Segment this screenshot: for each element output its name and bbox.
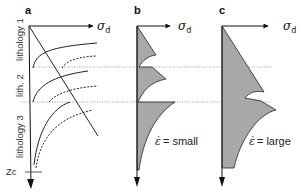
lithology-2-label: lith. 2 <box>14 74 25 97</box>
panel-c-letter: c <box>219 4 225 16</box>
lithology-1-label: lithology 1 <box>14 18 25 61</box>
depth-arrow-icon <box>27 179 34 189</box>
strength-profile-figure: a σd Zc lithology 1 lith. 2 lithology 3 … <box>0 0 305 193</box>
panel-b-letter: b <box>134 4 141 16</box>
ductile-curve-dotted-lith1 <box>62 56 96 68</box>
strain-rate-large-label: ε̇= large <box>249 135 291 148</box>
ductile-curve-dotted-lith2 <box>49 86 98 102</box>
panel-c: c σd ε̇= large <box>219 4 296 187</box>
strain-rate-small-label: ε̇= small <box>155 135 198 148</box>
panel-b-axis-label: σd <box>178 19 191 35</box>
depth-arrow-icon <box>219 177 225 187</box>
depth-arrow-icon <box>134 177 140 187</box>
panel-b: b σd ε̇= small <box>134 4 198 187</box>
panel-a-axis-label: σd <box>97 19 110 35</box>
panel-c-axis-label: σd <box>283 19 296 35</box>
ductile-curve-lith3 <box>34 102 70 165</box>
ductile-curve-dotted-lith3 <box>36 110 93 168</box>
panel-a: a σd Zc lithology 1 lith. 2 lithology 3 <box>6 4 110 189</box>
lithology-3-label: lithology 3 <box>14 115 25 158</box>
brittle-strength-line <box>29 26 98 136</box>
strength-envelope-small <box>137 26 175 170</box>
zc-label: Zc <box>6 166 17 177</box>
panel-a-letter: a <box>25 4 32 16</box>
depth-axis <box>29 26 31 186</box>
